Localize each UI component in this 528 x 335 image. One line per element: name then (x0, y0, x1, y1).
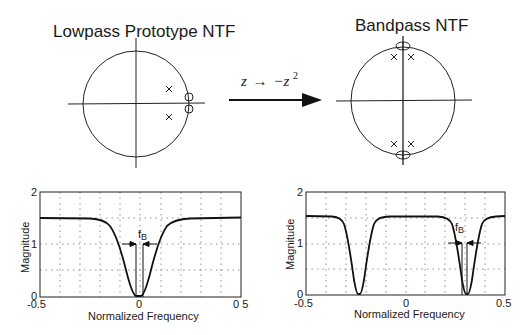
fb-annotation: fB (455, 221, 464, 235)
y-tick-2: 2 (31, 186, 37, 198)
transform-arrow: z → −z 2 (229, 70, 322, 107)
pole-marker-icon (391, 141, 397, 147)
y-tick-2: 2 (297, 186, 303, 198)
pole-marker-icon (408, 54, 414, 60)
pole-marker-icon (408, 141, 414, 147)
transform-label: z → −z 2 (240, 70, 298, 89)
y-tick-1: 1 (297, 237, 303, 249)
x-axis-label: Normalized Frequency (354, 308, 465, 320)
lowpass-magnitude-chart: fB 2 1 0 -0.5 0 0 5 Normalized Frequency… (19, 186, 248, 322)
lowpass-pole-zero-plot (68, 38, 205, 168)
magnitude-curve (306, 216, 505, 294)
y-axis-label: Magnitude (19, 222, 31, 273)
x-tick-pos: 0.5 (496, 297, 511, 309)
real-axis (336, 100, 472, 101)
bandpass-pole-zero-plot (336, 36, 472, 165)
x-tick-pos: 0 5 (233, 298, 248, 310)
x-tick-neg: -0.5 (294, 297, 313, 309)
y-tick-1: 1 (31, 238, 37, 250)
x-tick-neg: -0.5 (27, 298, 46, 310)
figure-canvas: z → −z 2 (0, 0, 528, 335)
pole-marker-icon (391, 54, 397, 60)
y-axis-label: Magnitude (284, 219, 296, 270)
x-axis-label: Normalized Frequency (88, 310, 199, 322)
arrow-head-icon (302, 93, 322, 107)
fb-annotation: fB (138, 228, 147, 242)
x-tick-zero: 0 (136, 298, 142, 310)
pole-marker-icon (166, 86, 172, 92)
grid (40, 192, 241, 297)
pole-marker-icon (166, 114, 172, 120)
bandpass-magnitude-chart: fB 2 1 0 -0.5 0 0.5 Normalized Frequency… (284, 186, 511, 320)
plot-frame (40, 192, 241, 297)
